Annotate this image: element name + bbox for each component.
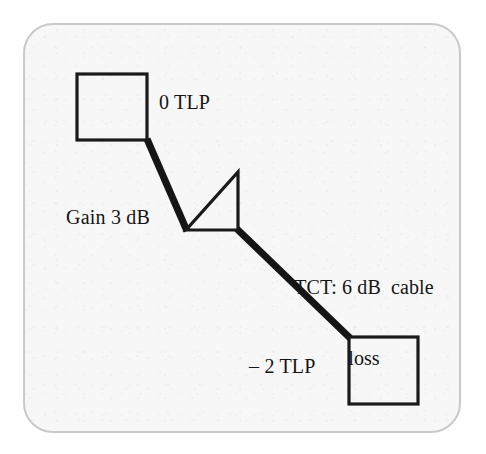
label-destination-level: – 2 TLP [249,355,316,379]
label-cable-loss-group: TCT: 6 dB cable loss [286,229,442,418]
node-amplifier-triangle [186,172,238,230]
link-source-to-amplifier [147,139,187,231]
label-cable-loss-line1: TCT: 6 dB cable [286,276,442,300]
label-amplifier-gain: Gain 3 dB [66,206,150,230]
figure-canvas: 0 TLP Gain 3 dB TCT: 6 dB cable loss – 2… [0,0,486,454]
node-source-block [77,74,147,140]
label-source-level: 0 TLP [159,91,210,115]
